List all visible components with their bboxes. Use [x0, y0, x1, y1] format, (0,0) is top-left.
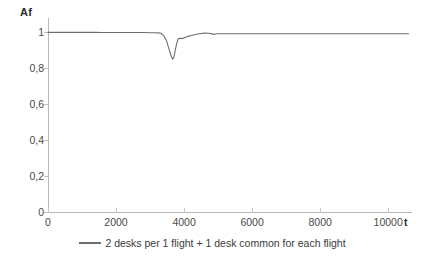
legend-item-label: 2 desks per 1 flight + 1 desk common for… — [105, 237, 345, 249]
line-chart: Af 00,20,40,60,81 0200040006000800010000… — [0, 0, 425, 262]
series-plot — [0, 0, 425, 262]
series-line-0 — [48, 32, 409, 59]
legend: 2 desks per 1 flight + 1 desk common for… — [0, 237, 425, 249]
legend-line-marker — [79, 242, 101, 244]
